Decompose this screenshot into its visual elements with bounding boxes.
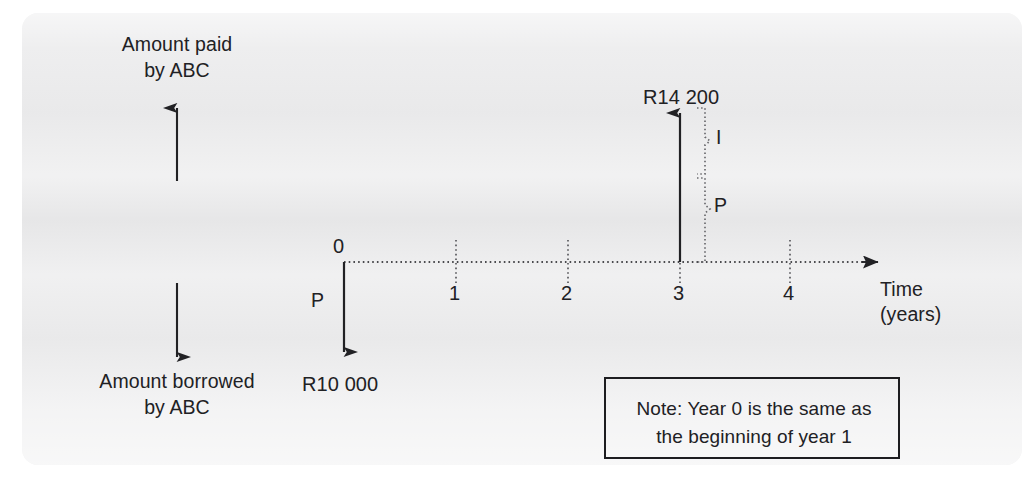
axis-tick-label-2: 2 xyxy=(561,280,572,306)
axis-tick-label-1: 1 xyxy=(449,280,460,306)
axis-tick-label-4: 4 xyxy=(783,280,794,306)
amount-paid-axis-label: Amount paid by ABC xyxy=(62,32,292,83)
axis-tick-label-0: 0 xyxy=(333,233,344,259)
note-text: Note: Year 0 is the same as the beginnin… xyxy=(606,395,902,450)
axis-tick-label-3: 3 xyxy=(673,280,684,306)
amount-borrowed-axis-label: Amount borrowed by ABC xyxy=(52,369,302,420)
time-axis-units: (years) xyxy=(880,302,941,328)
amount-repaid-value: R14 200 xyxy=(643,84,719,110)
principal-symbol-year0: P xyxy=(311,288,324,314)
note-box: Note: Year 0 is the same as the beginnin… xyxy=(604,377,900,459)
interest-brace-label: I xyxy=(716,125,722,151)
amount-borrowed-value: R10 000 xyxy=(302,371,378,397)
principal-brace-label: P xyxy=(714,193,727,219)
time-axis-title: Time xyxy=(880,277,923,303)
diagram-page: Amount paid by ABC Amount borrowed by AB… xyxy=(0,0,1033,498)
